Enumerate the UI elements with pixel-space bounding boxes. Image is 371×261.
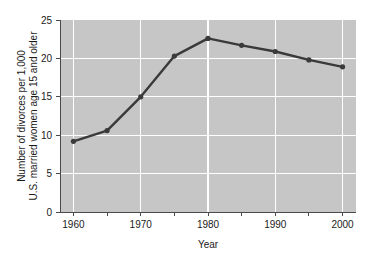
chart-figure: 25 20 15 10 5 0 1960 1970 1980 1990 2000… (0, 0, 371, 261)
x-axis-title: Year (198, 239, 219, 250)
y-axis-title-line1: Number of divorces per 1,000 (16, 50, 27, 182)
y-tick-label-15: 15 (41, 91, 53, 102)
divorce-rate-line-chart: 25 20 15 10 5 0 1960 1970 1980 1990 2000… (0, 0, 371, 261)
data-point-1965 (104, 128, 109, 133)
x-tick-label-1990: 1990 (264, 219, 287, 230)
data-point-2000 (340, 64, 345, 69)
data-point-1960 (71, 139, 76, 144)
data-point-1995 (306, 57, 311, 62)
data-point-1975 (172, 54, 177, 59)
y-tick-label-20: 20 (41, 53, 53, 64)
y-tick-label-0: 0 (46, 207, 52, 218)
x-tick-label-1960: 1960 (62, 219, 85, 230)
data-point-1970 (138, 94, 143, 99)
y-axis-title: Number of divorces per 1,000 U.S. marrie… (16, 31, 39, 201)
y-tick-label-5: 5 (46, 168, 52, 179)
x-tick-label-1970: 1970 (130, 219, 153, 230)
x-tick-label-2000: 2000 (331, 219, 354, 230)
x-tick-label-1980: 1980 (197, 219, 220, 230)
data-point-1980 (205, 36, 210, 41)
y-tick-label-25: 25 (41, 15, 53, 26)
y-axis-title-line2: U.S. married women age 15 and older (28, 31, 39, 201)
y-tick-label-10: 10 (41, 130, 53, 141)
data-point-1985 (239, 43, 244, 48)
data-point-1990 (273, 49, 278, 54)
